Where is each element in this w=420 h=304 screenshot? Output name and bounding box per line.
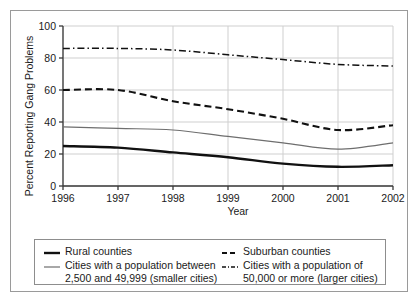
axis-ticks: [59, 26, 393, 190]
x-axis-tick-label: 1999: [216, 192, 240, 204]
y-axis-tick-label: 80: [44, 52, 56, 64]
legend-entry: Rural counties: [43, 245, 219, 258]
legend-line-icon: [43, 259, 61, 272]
chart-svg: 0204060801001996199719981999200020012002…: [11, 11, 409, 227]
y-axis-tick-label: 100: [38, 20, 56, 32]
chart-legend: Rural countiesCities with a population b…: [34, 239, 386, 285]
x-axis-tick-label: 1997: [106, 192, 130, 204]
y-axis-tick-label: 60: [44, 84, 56, 96]
x-axis-tick-label: 2002: [381, 192, 405, 204]
y-axis-tick-label: 20: [44, 148, 56, 160]
y-axis-tick-label: 40: [44, 116, 56, 128]
x-axis-tick-label: 2000: [271, 192, 295, 204]
legend-column-right: Suburban countiesCities with a populatio…: [221, 245, 385, 286]
legend-entry: Cities with a population between 2,500 a…: [43, 259, 219, 285]
legend-column-left: Rural countiesCities with a population b…: [43, 245, 219, 286]
legend-entry: Cities with a population of 50,000 or mo…: [221, 259, 385, 285]
legend-label: Cities with a population of 50,000 or mo…: [243, 259, 378, 285]
plot-area: 0204060801001996199719981999200020012002…: [11, 11, 409, 227]
x-axis-tick-label: 1996: [51, 192, 75, 204]
legend-entry: Suburban counties: [221, 245, 385, 258]
legend-label: Cities with a population between 2,500 a…: [65, 259, 217, 285]
x-axis-title: Year: [227, 205, 249, 217]
axis-tick-labels: 0204060801001996199719981999200020012002: [38, 20, 404, 204]
legend-label: Rural counties: [65, 245, 132, 258]
legend-line-icon: [221, 259, 239, 272]
gridlines: [63, 26, 393, 186]
chart-figure: 0204060801001996199719981999200020012002…: [10, 10, 408, 292]
legend-line-icon: [43, 245, 61, 258]
x-axis-tick-label: 1998: [161, 192, 185, 204]
y-axis-tick-label: 0: [50, 180, 56, 192]
legend-label: Suburban counties: [243, 245, 331, 258]
legend-line-icon: [221, 245, 239, 258]
y-axis-title: Percent Reporting Gang Problems: [23, 36, 35, 197]
x-axis-tick-label: 2001: [326, 192, 350, 204]
